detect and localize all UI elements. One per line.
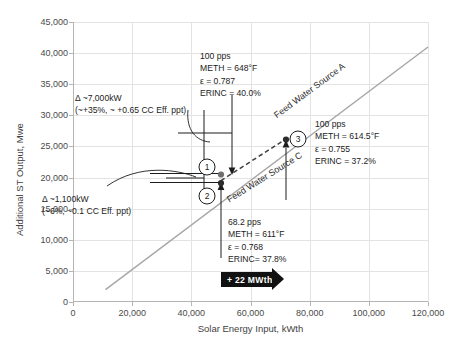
callout-point-3: 100 pps METH = 614.5°F ε = 0.755 ERINC =… — [315, 118, 379, 168]
data-point-badge-2: 2 — [199, 188, 216, 205]
y-tick-label: 25,000 — [8, 141, 68, 151]
x-axis-title: Solar Energy Input, kWth — [73, 323, 428, 334]
delta-annotation-lower: Δ ~1,100kW (~6%, ~0.1 CC Eff. ppt) — [42, 193, 131, 218]
callout-3-line-1: 100 pps — [315, 118, 379, 130]
data-point-badge-1: 1 — [199, 159, 216, 176]
chart-figure: Additional ST Output, Mwe 45,000 40,000 … — [0, 0, 470, 350]
callout-1-line-1: 100 pps — [200, 50, 261, 62]
gridline — [191, 22, 192, 302]
callout-point-1: 100 pps METH = 648°F ε = 0.787 ERINC = 4… — [200, 50, 261, 100]
delta-lower-line-2: (~6%, ~0.1 CC Eff. ppt) — [42, 205, 131, 217]
gridline — [428, 22, 429, 302]
y-tick-mark — [69, 146, 73, 147]
thermal-gain-arrow: + 22 MWth — [221, 272, 273, 287]
callout-3-line-2: METH = 614.5°F — [315, 130, 379, 142]
y-tick-mark — [69, 115, 73, 116]
y-tick-mark — [69, 178, 73, 179]
x-tick-mark — [73, 302, 74, 306]
delta-upper-line-1: Δ ~7,000kW — [75, 92, 186, 104]
callout-2-line-2: METH = 611°F — [228, 228, 287, 240]
y-tick-mark — [69, 84, 73, 85]
y-tick-mark — [69, 271, 73, 272]
thermal-gain-label: + 22 MWth — [221, 275, 272, 285]
x-tick-label: 0 — [70, 308, 75, 318]
callout-2-line-3: ε = 0.768 — [228, 241, 287, 253]
x-tick-label: 80,000 — [296, 308, 324, 318]
y-tick-label: 40,000 — [8, 48, 68, 58]
y-tick-label: 30,000 — [8, 110, 68, 120]
callout-3-line-4: ERINC = 37.2% — [315, 155, 379, 167]
callout-3-line-3: ε = 0.755 — [315, 143, 379, 155]
callout-2-line-4: ERINC= 37.8% — [228, 253, 287, 265]
x-tick-label: 100,000 — [353, 308, 386, 318]
x-tick-label: 20,000 — [118, 308, 146, 318]
y-tick-mark — [69, 240, 73, 241]
callout-2-line-1: 68.2 pps — [228, 216, 287, 228]
delta-lower-line-1: Δ ~1,100kW — [42, 193, 131, 205]
x-tick-mark — [132, 302, 133, 306]
gridline — [310, 22, 311, 302]
y-tick-mark — [69, 53, 73, 54]
delta-upper-line-2: (~+35%, ~ +0.65 CC Eff. ppt) — [75, 104, 186, 116]
x-tick-label: 40,000 — [178, 308, 206, 318]
x-tick-mark — [369, 302, 370, 306]
callout-point-2: 68.2 pps METH = 611°F ε = 0.768 ERINC= 3… — [228, 216, 287, 266]
x-tick-label: 120,000 — [412, 308, 445, 318]
y-axis-line — [73, 22, 74, 302]
y-tick-label: 45,000 — [8, 17, 68, 27]
y-tick-label: 0 — [8, 297, 68, 307]
gridline — [132, 22, 133, 302]
y-tick-label: 35,000 — [8, 79, 68, 89]
y-tick-mark — [69, 22, 73, 23]
delta-annotation-upper: Δ ~7,000kW (~+35%, ~ +0.65 CC Eff. ppt) — [75, 92, 186, 117]
data-point-badge-3: 3 — [290, 131, 307, 148]
callout-1-line-4: ERINC = 40.0% — [200, 87, 261, 99]
x-tick-mark — [251, 302, 252, 306]
y-tick-label: 5,000 — [8, 266, 68, 276]
callout-1-line-3: ε = 0.787 — [200, 75, 261, 87]
x-tick-mark — [310, 302, 311, 306]
y-tick-label: 20,000 — [8, 173, 68, 183]
x-tick-mark — [191, 302, 192, 306]
x-tick-mark — [428, 302, 429, 306]
x-tick-label: 60,000 — [237, 308, 265, 318]
callout-1-line-2: METH = 648°F — [200, 62, 261, 74]
y-tick-label: 10,000 — [8, 235, 68, 245]
arrow-head-icon — [272, 268, 284, 290]
